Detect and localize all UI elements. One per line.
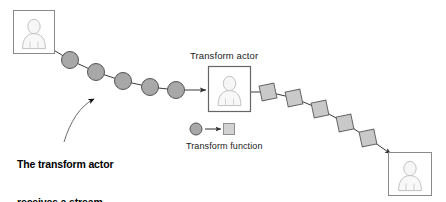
- transform-actor: [209, 67, 251, 112]
- source-actor: [14, 11, 55, 54]
- message-circle: [115, 73, 132, 90]
- message-circle: [62, 52, 79, 69]
- message-stream-out: [259, 83, 377, 147]
- transform-function-label: Transform function: [186, 141, 263, 151]
- legend-circle-icon: [190, 123, 202, 135]
- message-circle: [142, 79, 159, 96]
- message-circle: [168, 82, 185, 99]
- diagram-canvas: Transform actor Transform function The t…: [0, 0, 446, 202]
- caption-text: The transform actor receives a stream of…: [17, 133, 113, 202]
- caption-line-2: receives a stream: [17, 196, 113, 202]
- message-square: [359, 129, 377, 147]
- sink-actor: [389, 153, 432, 196]
- message-circle: [88, 64, 105, 81]
- message-square: [311, 100, 329, 118]
- message-stream-in: [62, 52, 185, 99]
- legend-transform-function: [190, 123, 235, 135]
- legend-square-icon: [224, 124, 235, 135]
- message-square: [336, 114, 354, 132]
- transform-actor-label: Transform actor: [190, 50, 258, 61]
- message-square: [259, 83, 277, 101]
- message-square: [285, 89, 303, 107]
- caption-line-1: The transform actor: [17, 158, 113, 171]
